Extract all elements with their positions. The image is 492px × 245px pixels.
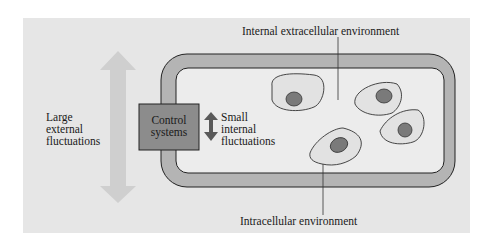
label-internal-extracellular: Internal extracellular environment bbox=[242, 25, 399, 37]
homeostasis-diagram: Internal extracellular environment Intra… bbox=[0, 0, 492, 245]
label-large-external-fluctuations: Large external fluctuations bbox=[46, 111, 100, 147]
label-small-internal-fluctuations: Small internal fluctuations bbox=[221, 111, 275, 147]
label-control-systems: Control systems bbox=[139, 114, 199, 138]
label-intracellular: Intracellular environment bbox=[240, 215, 357, 227]
